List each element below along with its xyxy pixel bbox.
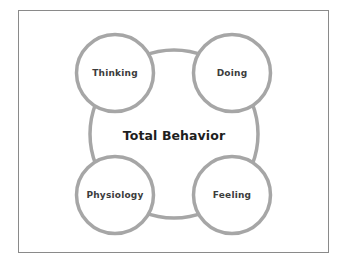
thinking-label: Thinking: [92, 68, 138, 78]
total-behavior-title: Total Behavior: [123, 128, 225, 143]
physiology-label: Physiology: [86, 190, 143, 200]
doing-label: Doing: [217, 68, 248, 78]
feeling-label: Feeling: [213, 190, 251, 200]
